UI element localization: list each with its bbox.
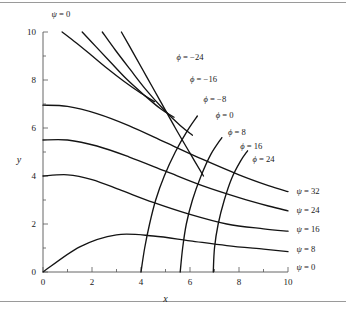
y-tick-label: 0 xyxy=(32,267,37,277)
y-axis-label: y xyxy=(16,154,22,165)
annotation-value: = 0 xyxy=(57,9,70,19)
annotation-value: = 24 xyxy=(302,205,320,215)
curve-phi-24 xyxy=(213,151,247,272)
annotation-value: = 8 xyxy=(232,127,245,137)
annotation-value: = 16 xyxy=(302,224,320,234)
y-tick-label: 4 xyxy=(32,171,37,181)
curve-annotation: ϕ = 0 xyxy=(216,110,234,120)
curve-annotation: ϕ = −24 xyxy=(177,52,205,62)
curves-group xyxy=(43,32,288,272)
curve-phi-8 xyxy=(141,116,197,272)
curve-annotations-group: ψ = 0ϕ = −24ϕ = −16ϕ = −8ϕ = 0ϕ = 8ϕ = 1… xyxy=(52,9,321,272)
annotation-value: = 0 xyxy=(302,262,315,272)
curve-annotation: ϕ = 24 xyxy=(252,154,275,164)
curve-psi-16 xyxy=(43,175,288,232)
annotation-value: = 0 xyxy=(220,110,233,120)
y-tick-label: 8 xyxy=(32,75,37,85)
curve-psi-8 xyxy=(43,234,288,272)
curve-annotation: ϕ = 16 xyxy=(240,141,263,151)
axes-group xyxy=(43,32,288,272)
x-tick-label: 6 xyxy=(188,277,193,287)
annotation-value: = 8 xyxy=(302,244,315,254)
annotation-value: = −16 xyxy=(194,74,217,84)
curve-annotation: ϕ = −16 xyxy=(190,74,218,84)
x-tick-label: 10 xyxy=(284,277,294,287)
annotation-value: = 16 xyxy=(245,141,263,151)
x-tick-label: 8 xyxy=(237,277,242,287)
curve-annotation: ϕ = 8 xyxy=(228,127,246,137)
curve-annotation: ψ = 24 xyxy=(297,205,321,215)
x-tick-label: 2 xyxy=(90,277,95,287)
y-tick-label: 2 xyxy=(32,219,37,229)
curve-annotation: ψ = 0 xyxy=(52,9,71,19)
x-tick-label: 0 xyxy=(41,277,46,287)
axis-lines xyxy=(43,32,288,272)
y-tick-label: 10 xyxy=(27,27,37,37)
curve-annotation: ϕ = −8 xyxy=(203,94,226,104)
x-tick-label: 4 xyxy=(139,277,144,287)
curve-annotation: ψ = 16 xyxy=(297,224,321,234)
y-tick-label: 6 xyxy=(32,123,37,133)
annotation-value: = −8 xyxy=(208,94,226,104)
x-axis-label: x xyxy=(162,293,168,304)
annotation-value: = 24 xyxy=(257,154,275,164)
flow-net-plot: 02468100246810 ψ = 0ϕ = −24ϕ = −16ϕ = −8… xyxy=(0,0,346,315)
curve-annotation: ψ = 0 xyxy=(297,262,316,272)
annotation-value: = −24 xyxy=(181,52,204,62)
figure-container: 02468100246810 ψ = 0ϕ = −24ϕ = −16ϕ = −8… xyxy=(0,0,346,315)
curve-phi-16 xyxy=(180,138,222,272)
curve-annotation: ψ = 32 xyxy=(297,186,320,196)
curve-annotation: ψ = 8 xyxy=(297,244,316,254)
annotation-value: = 32 xyxy=(302,186,320,196)
